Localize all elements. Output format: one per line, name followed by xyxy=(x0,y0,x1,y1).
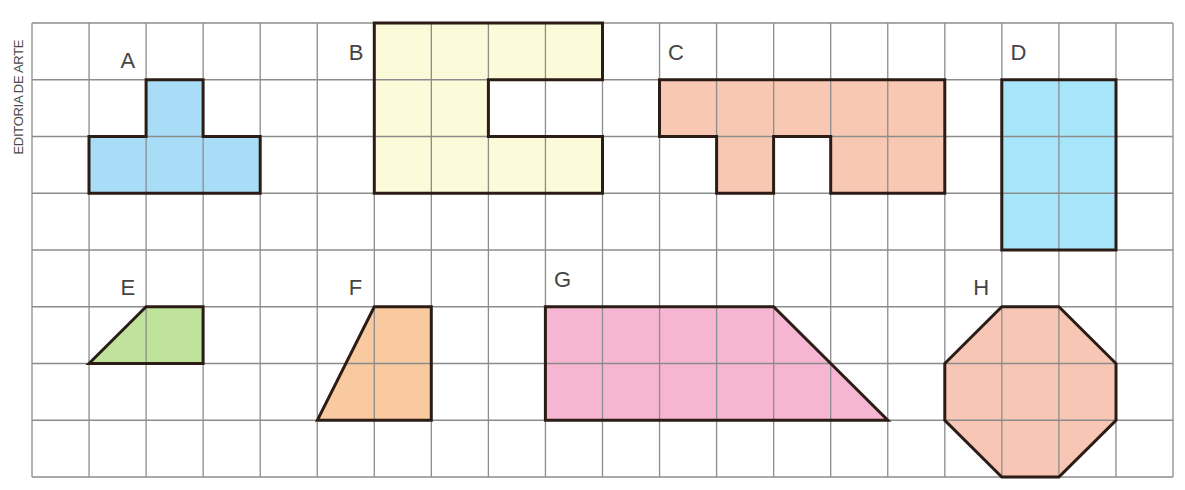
shape-h-label: H xyxy=(973,275,989,300)
shape-d-label: D xyxy=(1010,40,1026,65)
shape-f-label: F xyxy=(349,275,362,300)
shape-b-label: B xyxy=(349,40,364,65)
shape-h-fill xyxy=(945,307,1116,477)
shape-g-label: G xyxy=(554,267,571,292)
shape-e-label: E xyxy=(120,275,135,300)
grid-diagram: ABCDEFGH xyxy=(0,0,1185,490)
shape-c-label: C xyxy=(668,40,684,65)
shape-a-label: A xyxy=(120,48,135,73)
